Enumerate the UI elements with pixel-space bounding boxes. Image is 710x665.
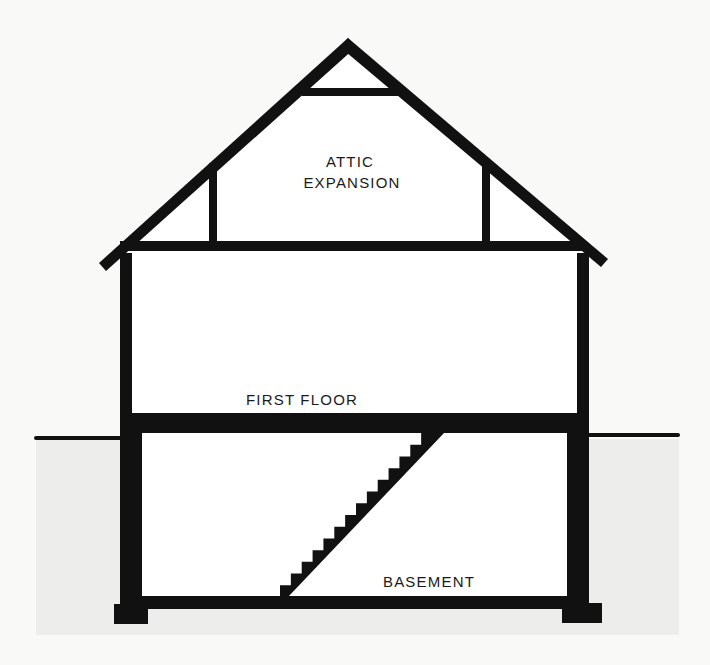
house-section-diagram: ATTIC EXPANSION FIRST FLOOR BASEMENT (0, 0, 710, 665)
attic-interior (116, 48, 596, 246)
basement-slab (130, 596, 580, 609)
footing-left (114, 604, 148, 624)
attic-label-line1: ATTIC (326, 153, 374, 170)
first-floor-label: FIRST FLOOR (246, 391, 358, 408)
knee-wall-right (482, 160, 490, 245)
basement-label: BASEMENT (383, 573, 475, 590)
exterior-wall-right (577, 253, 589, 433)
house-section-svg: ATTIC EXPANSION FIRST FLOOR BASEMENT (0, 0, 710, 665)
foundation-wall-left (120, 413, 142, 613)
attic-floor-joist (120, 241, 586, 251)
foundation-wall-right (567, 413, 589, 613)
attic-label-line2: EXPANSION (303, 174, 400, 191)
collar-tie (302, 88, 402, 96)
exterior-wall-left (120, 253, 132, 433)
footing-right (562, 603, 602, 623)
knee-wall-left (209, 163, 217, 247)
first-floor-slab (130, 413, 580, 433)
